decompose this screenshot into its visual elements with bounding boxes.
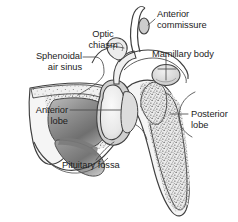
label-pituitary-fossa-line1: Pituitary fossa [62,160,120,171]
label-optic-chiasm-line2: chiasm [82,40,124,51]
label-anterior-commissure-line1: Anterior [157,9,207,20]
lamina-terminalis-group [131,7,150,53]
label-optic-chiasm-line1: Optic [82,29,124,40]
label-posterior-lobe-line2: lobe [191,120,228,131]
label-optic-chiasm: Optic chiasm [82,29,124,50]
pituitary-diagram: Anterior commissure Optic chiasm Mamilla… [0,0,238,222]
label-sphenoidal-air-sinus: Sphenoidal air sinus [0,51,82,72]
label-posterior-lobe-line1: Posterior [191,109,228,120]
anterior-commissure-oval [139,18,149,34]
label-anterior-lobe: Anterior lobe [0,105,68,126]
label-mamillary-body-line1: Mamillary body [152,49,214,60]
label-pituitary-fossa: Pituitary fossa [62,160,120,171]
label-sphenoidal-air-sinus-line2: air sinus [0,62,82,73]
lamina-terminalis-cap [138,7,145,9]
label-anterior-lobe-line2: lobe [0,116,68,127]
label-anterior-commissure-line2: commissure [157,20,207,31]
lamina-terminalis [131,8,138,52]
label-anterior-lobe-line1: Anterior [0,105,68,116]
label-anterior-commissure: Anterior commissure [157,9,207,30]
label-sphenoidal-air-sinus-line1: Sphenoidal [0,51,82,62]
label-mamillary-body: Mamillary body [152,49,214,60]
optic-nerve [92,48,108,63]
posterior-lobe [121,92,138,133]
label-posterior-lobe: Posterior lobe [191,109,228,130]
